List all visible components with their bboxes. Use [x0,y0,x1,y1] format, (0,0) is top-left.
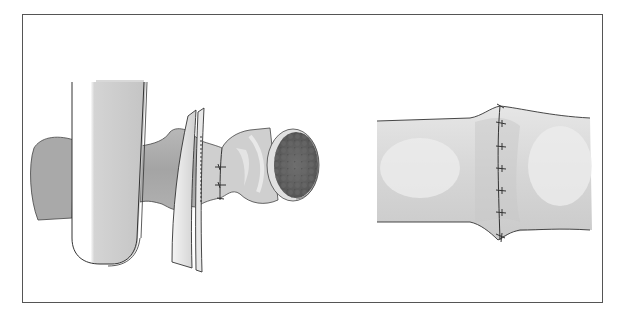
retractor [72,80,147,266]
left-panel [31,80,319,272]
surgical-illustration [0,0,621,319]
bowel-distal [198,128,278,206]
tumor-mass [267,129,319,201]
right-panel [377,104,592,242]
bowel-stump [31,137,74,220]
